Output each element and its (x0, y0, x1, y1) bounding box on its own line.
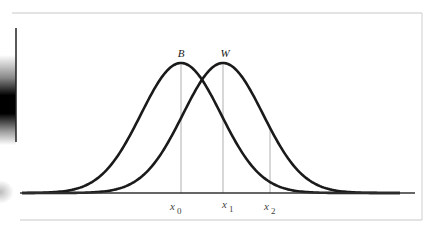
marker-label-x0: x 0 (169, 200, 182, 216)
marker-lines (181, 63, 270, 193)
svg-text:1: 1 (229, 204, 234, 214)
svg-text:2: 2 (271, 206, 276, 216)
svg-text:x: x (263, 200, 269, 212)
svg-text:x: x (221, 198, 227, 210)
normal-curves-diagram: B W x 0 x 1 x 2 (0, 0, 432, 230)
curve-b (22, 63, 400, 193)
marker-label-x1: x 1 (221, 198, 234, 214)
svg-text:0: 0 (177, 206, 182, 216)
marker-label-x2: x 2 (263, 200, 276, 216)
curves (22, 63, 400, 193)
curve-label-w: W (220, 47, 230, 59)
curve-w (22, 63, 400, 193)
svg-text:x: x (169, 200, 175, 212)
curve-label-b: B (178, 47, 185, 59)
